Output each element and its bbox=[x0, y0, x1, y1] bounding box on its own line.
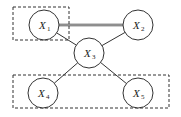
node-label: X bbox=[37, 87, 46, 99]
node-x5: X5 bbox=[123, 78, 153, 108]
node-x2: X2 bbox=[123, 10, 153, 40]
node-label: X bbox=[132, 19, 141, 31]
edge-x3-x5 bbox=[101, 62, 127, 83]
node-subscript: 1 bbox=[47, 25, 51, 33]
node-x1: X1 bbox=[29, 10, 59, 40]
node-subscript: 4 bbox=[46, 93, 50, 101]
node-subscript: 3 bbox=[92, 53, 96, 61]
nodes: X1X2X3X4X5 bbox=[28, 10, 153, 108]
edge-x1-x3 bbox=[57, 33, 77, 45]
node-label: X bbox=[83, 47, 92, 59]
node-subscript: 5 bbox=[141, 93, 145, 101]
node-label: X bbox=[132, 87, 141, 99]
node-x4: X4 bbox=[28, 78, 58, 108]
node-subscript: 2 bbox=[141, 25, 145, 33]
edge-x3-x4 bbox=[54, 63, 77, 83]
edge-x2-x3 bbox=[102, 32, 125, 45]
node-x3: X3 bbox=[74, 38, 104, 68]
node-label: X bbox=[38, 19, 47, 31]
graph-diagram: X1X2X3X4X5 bbox=[0, 0, 181, 117]
